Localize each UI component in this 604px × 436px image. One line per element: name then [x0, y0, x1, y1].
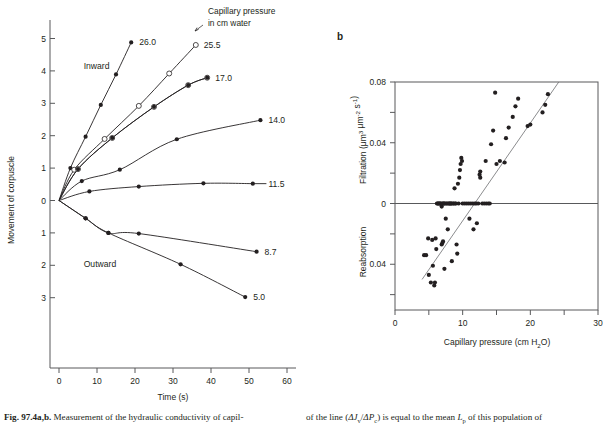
caption-left-text: Measurement of the hydraulic conductivit… — [54, 412, 244, 422]
panel-b-point — [484, 159, 488, 163]
panel-b-y-tick-label: 0.04 — [369, 259, 386, 269]
panel-a-x-tick-label: 20 — [130, 376, 140, 386]
panel-b-point — [489, 142, 493, 146]
panel-b-point — [426, 236, 430, 240]
panel-a-point-filled — [110, 136, 114, 140]
panel-b-chart: b 0.080.0400.040102030 Filtration (μm3 μ… — [300, 0, 604, 410]
panel-a-y-tick-label: 1 — [41, 163, 46, 173]
panel-b-x-tick-label: 0 — [393, 318, 398, 328]
panel-b-point — [424, 253, 428, 257]
panel-a-axes — [50, 20, 296, 373]
panel-a-point-filled — [76, 167, 80, 171]
panel-a-point-filled — [243, 295, 247, 299]
panel-a-series-label: 11.5 — [268, 179, 284, 189]
panel-a-point-open — [136, 103, 141, 108]
panel-a-y-tick-label: 3 — [41, 98, 46, 108]
caption-figure-number: Fig. 97.4a,b. — [4, 412, 51, 422]
panel-a-series-label: 25.5 — [204, 40, 221, 50]
panel-b-point — [452, 186, 456, 190]
caption-right-italic-1: ΔJ — [348, 412, 357, 422]
panel-a-x-tick-label: 10 — [92, 376, 102, 386]
caption-right-text-3: ) is equal to the mean — [377, 412, 457, 422]
panel-a-series-label: 8.7 — [265, 247, 277, 257]
panel-a-curve-14.0 — [59, 120, 260, 200]
panel-a-point-filled — [137, 184, 141, 188]
panel-a-x-tick-label: 60 — [282, 376, 292, 386]
panel-a-point-filled — [258, 118, 262, 122]
panel-b-point — [511, 115, 515, 119]
panel-b-point — [498, 159, 502, 163]
panel-a-point-filled — [106, 231, 110, 235]
panel-b-point — [455, 252, 459, 256]
panel-b-point — [456, 182, 460, 186]
panel-a-point-filled — [80, 179, 84, 183]
panel-a-point-filled — [99, 103, 103, 107]
panel-a-point-open — [193, 42, 198, 47]
panel-b-point — [427, 273, 431, 277]
panel-a-series-label: 5.0 — [253, 292, 265, 302]
panel-b-point — [476, 201, 480, 205]
panel-b-point — [543, 103, 547, 107]
figure-caption: Fig. 97.4a,b. Measurement of the hydraul… — [0, 411, 604, 436]
panel-a-y-tick-label: 2 — [41, 260, 46, 270]
panel-b-point — [516, 97, 520, 101]
panel-b-frame — [395, 82, 598, 310]
caption-right-column: of the line (ΔJv/ΔPc) is equal to the me… — [306, 411, 602, 427]
panel-b-y-axis-label-filtration: Filtration (μm3 μm-2 s-1) — [349, 96, 368, 184]
panel-b-point — [504, 136, 508, 140]
panel-b-fit-line — [422, 82, 559, 279]
panel-b-point — [546, 92, 550, 96]
panel-b-point — [528, 122, 532, 126]
panel-b-point — [442, 267, 446, 271]
panel-b-x-tick-label: 20 — [526, 318, 536, 328]
panel-b-point — [488, 201, 492, 205]
panel-a-point-filled — [84, 216, 88, 220]
panel-a-annotation-line1: Capillary pressure — [208, 6, 276, 16]
panel-a-point-filled — [255, 250, 259, 254]
panel-b-point — [457, 201, 461, 205]
panel-b-x-tick-label: 30 — [593, 318, 603, 328]
panel-b-point — [434, 247, 438, 251]
panel-b-point — [471, 227, 475, 231]
panel-b-point — [429, 280, 433, 284]
panel-a-series-label: 14.0 — [268, 115, 285, 125]
panel-a-annotation-line2: in cm water — [208, 18, 251, 28]
panel-b-point — [478, 170, 482, 174]
panel-a-point-filled — [251, 182, 255, 186]
panel-b-point — [491, 129, 495, 133]
panel-b-datapoints — [422, 91, 550, 288]
panel-a-point-filled — [186, 83, 190, 87]
panel-b-y-tick-label: 0.04 — [369, 138, 386, 148]
panel-b-point — [431, 264, 435, 268]
panel-a-inward-label: Inward — [84, 61, 110, 71]
panel-b-y-tick-label: 0 — [381, 199, 386, 209]
panel-a-y-tick-label: 0 — [41, 196, 46, 206]
panel-b-point — [458, 168, 462, 172]
panel-b-point — [433, 280, 437, 284]
panel-a-point-filled — [118, 168, 122, 172]
panel-a-point-filled — [137, 231, 141, 235]
caption-right-text-4: of this population of — [466, 412, 542, 422]
panel-b-point — [540, 110, 544, 114]
panel-a-point-open — [167, 71, 172, 76]
panel-b-point — [434, 236, 438, 240]
panel-a-point-filled — [201, 181, 205, 185]
panel-b-y-tick-label: 0.08 — [369, 77, 386, 87]
panel-a-point-filled — [87, 189, 91, 193]
panel-a-x-tick-label: 0 — [57, 376, 62, 386]
panel-b-axes — [390, 82, 598, 315]
panel-a-labels: 543210123010203040506026.025.517.014.011… — [41, 34, 292, 387]
caption-left-column: Fig. 97.4a,b. Measurement of the hydraul… — [4, 411, 296, 423]
panel-b-point — [493, 91, 497, 95]
panel-a-curve-8.7 — [59, 201, 257, 252]
panel-b-point — [460, 159, 464, 163]
panel-b-y-axis-label-reabsorption: Reabsorption — [358, 226, 368, 277]
panel-a-y-tick-label: 4 — [41, 66, 46, 76]
panel-a-point-filled — [205, 76, 209, 80]
panel-a-x-axis-label: Time (s) — [158, 392, 189, 402]
panel-b-point — [457, 176, 461, 180]
panel-b-letter: b — [337, 31, 343, 42]
panel-a-point-open — [102, 136, 107, 141]
panel-a-x-tick-label: 50 — [244, 376, 254, 386]
panel-a-point-filled — [152, 105, 156, 109]
